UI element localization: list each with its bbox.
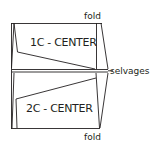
piece-2c-outer-left	[12, 73, 14, 128]
label-fold-top: fold	[84, 11, 101, 21]
label-piece-2c: 2C - CENTER	[26, 102, 93, 115]
fold-right-slant-bottom	[100, 73, 108, 128]
label-selvages: selvages	[110, 66, 150, 76]
label-fold-bottom: fold	[84, 132, 101, 142]
fabric-layout-diagram: fold selvages fold 1C - CENTER 2C - CENT…	[0, 0, 161, 143]
pattern-piece-2c	[12, 73, 108, 128]
fold-right-slant-top	[101, 23, 108, 69]
piece-2c-right-edge	[96, 73, 100, 128]
piece-2c-top-diagonal	[16, 78, 96, 99]
piece-1c-left-edge	[14, 23, 18, 52]
piece-2c-left-edge	[16, 99, 17, 128]
label-piece-1c: 1C - CENTER	[30, 36, 97, 49]
piece-1c-bottom-diagonal	[18, 52, 96, 69]
